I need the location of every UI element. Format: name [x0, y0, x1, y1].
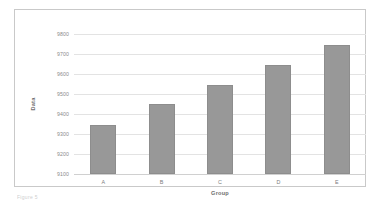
x-axis-tick-label: C [218, 179, 222, 185]
y-axis-tick-label: 9200 [57, 151, 69, 157]
gridline: 9100 [74, 174, 366, 175]
x-axis-title: Group [74, 190, 366, 196]
gridline: 9700 [74, 54, 366, 55]
y-axis-tick-label: 9600 [57, 71, 69, 77]
y-axis-tick-label: 9400 [57, 111, 69, 117]
bar-b [149, 104, 175, 174]
plot-frame: 91009200930094009500960097009800 ABCDE G… [14, 9, 366, 187]
bar-d [265, 65, 291, 174]
bar-c [207, 85, 233, 174]
y-axis-tick-label: 9300 [57, 131, 69, 137]
chart-figure: 91009200930094009500960097009800 ABCDE G… [0, 0, 379, 211]
x-axis-tick-label: D [276, 179, 280, 185]
x-axis-tick-label: E [335, 179, 339, 185]
y-axis-tick-label: 9800 [57, 31, 69, 37]
y-axis-tick-label: 9700 [57, 51, 69, 57]
figure-caption: Figure 5 [17, 194, 107, 202]
plot-area: 91009200930094009500960097009800 ABCDE [74, 34, 366, 174]
y-axis-title: Data [30, 98, 36, 111]
gridline: 9800 [74, 34, 366, 35]
x-axis-tick-label: A [101, 179, 105, 185]
bar-a [90, 125, 116, 174]
y-axis-tick-label: 9100 [57, 171, 69, 177]
gridline: 9600 [74, 74, 366, 75]
bar-e [324, 45, 350, 174]
x-axis-tick-label: B [160, 179, 164, 185]
y-axis-tick-label: 9500 [57, 91, 69, 97]
